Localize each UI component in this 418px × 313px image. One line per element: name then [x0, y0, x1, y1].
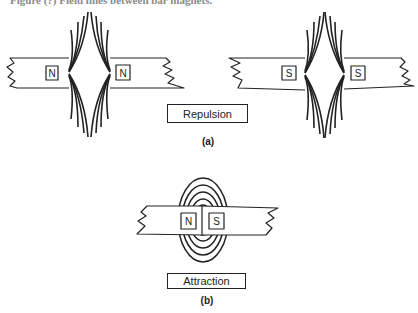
- repulsion-label: Repulsion: [167, 104, 248, 123]
- attraction-label: Attraction: [167, 273, 246, 289]
- field-lines-ss: [305, 12, 344, 138]
- pole-label: S: [355, 68, 362, 79]
- field-lines-nn: [69, 12, 110, 137]
- magnet-left-s1: [229, 58, 305, 90]
- pole-label: N: [185, 216, 192, 227]
- pole-label: S: [286, 68, 293, 79]
- caption-a: (a): [202, 136, 214, 147]
- magnet-diagram: N N S S N S: [0, 0, 418, 313]
- pole-label: N: [48, 68, 55, 79]
- magnet-left-n1: [7, 58, 69, 88]
- magnet-pair-ns: [137, 206, 278, 235]
- caption-b: (b): [201, 295, 214, 306]
- pole-label: N: [119, 68, 126, 79]
- pole-label: S: [213, 216, 220, 227]
